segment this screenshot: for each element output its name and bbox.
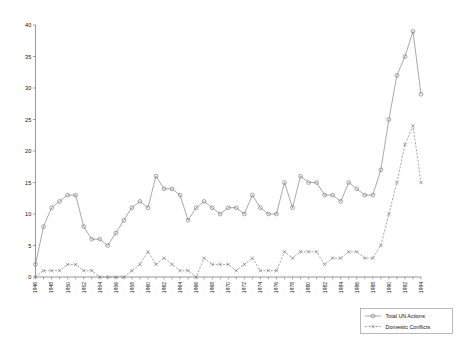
chart-container: 0510152025303540 19461948195019521954195… (0, 0, 456, 339)
x-axis-tick-label: 1950 (65, 282, 71, 293)
y-axis-tick-label: 5 (28, 243, 31, 249)
x-axis-tick-label: 1972 (241, 282, 247, 293)
chart-series-group (34, 29, 423, 278)
y-axis: 0510152025303540 (25, 22, 35, 280)
y-axis-tick-label: 40 (25, 22, 31, 28)
x-axis-tick-label: 1990 (386, 282, 392, 293)
x-axis-tick-label: 1982 (322, 282, 328, 293)
y-axis-tick-label: 0 (28, 274, 31, 280)
x-axis-tick-label: 1954 (97, 282, 103, 293)
x-axis-tick-label: 1980 (305, 282, 311, 293)
chart-legend: Total UN ActionsDomestic Conflicts (361, 309, 453, 334)
x-axis-tick-label: 1994 (418, 282, 424, 293)
y-axis-tick-label: 20 (25, 148, 31, 154)
x-axis-tick-label: 1978 (289, 282, 295, 293)
x-axis: 1946194819501952195419561958196019621964… (32, 277, 424, 293)
x-axis-tick-label: 1992 (402, 282, 408, 293)
x-axis-tick-label: 1974 (257, 282, 263, 293)
y-axis-tick-label: 10 (25, 211, 31, 217)
x-axis-tick-label: 1952 (81, 282, 87, 293)
x-axis-tick-label: 1976 (273, 282, 279, 293)
x-axis-tick-label: 1984 (338, 282, 344, 293)
x-axis-tick-label: 1960 (145, 282, 151, 293)
series-line-total-un-actions (36, 31, 422, 264)
x-axis-tick-label: 1964 (177, 282, 183, 293)
line-chart: 0510152025303540 19461948195019521954195… (0, 0, 456, 339)
x-axis-tick-label: 1986 (354, 282, 360, 293)
series-markers-total-un-actions (34, 29, 423, 266)
legend-item-label: Total UN Actions (386, 313, 426, 319)
x-axis-tick-label: 1988 (370, 282, 376, 293)
x-axis-tick-label: 1962 (161, 282, 167, 293)
x-axis-tick-label: 1948 (48, 282, 54, 293)
x-axis-tick-label: 1946 (32, 282, 38, 293)
x-axis-tick-label: 1970 (225, 282, 231, 293)
x-axis-tick-label: 1966 (193, 282, 199, 293)
y-axis-tick-label: 15 (25, 180, 31, 186)
y-axis-tick-label: 25 (25, 117, 31, 123)
y-axis-tick-label: 35 (25, 54, 31, 60)
series-markers-domestic-conflicts (34, 124, 423, 279)
x-axis-tick-label: 1968 (209, 282, 215, 293)
x-axis-tick-label: 1958 (129, 282, 135, 293)
series-line-domestic-conflicts (36, 126, 422, 277)
legend-item-label: Domestic Conflicts (386, 324, 431, 330)
x-axis-tick-label: 1956 (113, 282, 119, 293)
y-axis-tick-label: 30 (25, 85, 31, 91)
